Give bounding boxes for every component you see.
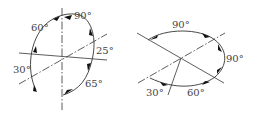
arrow-icon: [33, 46, 37, 53]
angle-label: 30°: [13, 64, 31, 75]
angle-label: 30°: [146, 87, 164, 98]
angle-label: 60°: [31, 22, 49, 33]
angle-label: 60°: [187, 87, 205, 98]
angle-label: 90°: [74, 10, 92, 21]
center-line: [168, 58, 181, 95]
diagonal-axis: [138, 33, 225, 83]
rotation-arc: [148, 31, 225, 86]
arrow-icon: [33, 85, 37, 92]
diagonal-line-1: [137, 33, 224, 83]
angle-label: 90°: [226, 53, 244, 64]
angle-label: 25°: [96, 45, 114, 56]
arrow-icon: [64, 15, 72, 20]
angle-label: 65°: [85, 78, 103, 89]
angle-label: 90°: [172, 19, 190, 30]
arrow-icon: [202, 33, 210, 38]
right-diagram: 90° 90° 30° 60°: [137, 19, 244, 98]
diagram-canvas: 60° 90° 25° 30° 65° 90° 90° 30° 60°: [0, 0, 255, 115]
arrow-icon: [64, 89, 73, 95]
left-diagram: 60° 90° 25° 30° 65°: [13, 8, 114, 110]
